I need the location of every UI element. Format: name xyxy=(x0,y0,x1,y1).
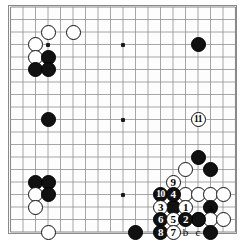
white-stone xyxy=(28,200,43,215)
black-stone xyxy=(191,37,206,52)
move-number-label: 11 xyxy=(194,115,202,125)
move-11-white: 11 xyxy=(191,112,206,127)
white-stone xyxy=(41,225,56,240)
black-stone xyxy=(41,187,56,202)
white-stone xyxy=(66,25,81,40)
move-number-label: 1 xyxy=(183,202,188,213)
black-stone xyxy=(41,62,56,77)
black-stone xyxy=(203,162,218,177)
move-number-label: 9 xyxy=(171,177,176,188)
hoshi-point xyxy=(121,193,125,197)
move-number-label: 5 xyxy=(171,214,176,225)
move-7-white: 7 xyxy=(166,225,181,240)
move-number-label: 10 xyxy=(156,190,165,200)
move-number-label: 6 xyxy=(158,214,163,225)
move-number-label: 4 xyxy=(171,189,176,200)
black-stone xyxy=(128,225,143,240)
move-number-label: 3 xyxy=(158,202,163,213)
move-number-label: 8 xyxy=(158,227,163,238)
move-number-label: 2 xyxy=(183,214,188,225)
hoshi-point xyxy=(46,43,50,47)
white-stone xyxy=(41,25,56,40)
black-stone xyxy=(191,150,206,165)
move-4-black: 4 xyxy=(166,187,181,202)
move-2-black: 2 xyxy=(178,212,193,227)
hoshi-point xyxy=(121,118,125,122)
black-stone xyxy=(41,112,56,127)
marker-a: a xyxy=(203,200,218,215)
hoshi-point xyxy=(121,43,125,47)
marker-c: c xyxy=(191,225,206,240)
move-number-label: 7 xyxy=(171,227,176,238)
white-stone xyxy=(178,162,193,177)
stone-layer: 1191043165287abc xyxy=(0,0,246,244)
go-board-diagram: 1191043165287abc xyxy=(0,0,246,244)
